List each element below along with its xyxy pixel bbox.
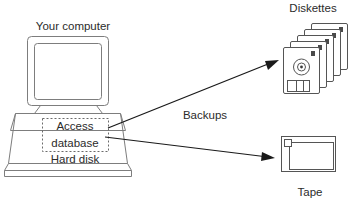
diskette-shutter-slot <box>297 81 304 92</box>
tape-graphic <box>282 137 336 172</box>
tape-label: Tape <box>298 186 323 198</box>
tape-inner-window <box>290 143 334 170</box>
diskette-hub-center <box>300 66 303 69</box>
access-database-label-line1: Access <box>56 120 93 132</box>
computer-plinth <box>5 171 132 177</box>
plinth-top-edge-right <box>128 164 132 171</box>
hard-disk-label: Hard disk <box>51 153 100 165</box>
backup-diagram: Your computer Access database Hard disk … <box>0 0 352 205</box>
arrow-to-tape-line <box>105 137 268 157</box>
access-database-label-line2: database <box>51 137 98 149</box>
diskettes-label: Diskettes <box>289 2 337 14</box>
arrow-to-diskettes-head <box>265 60 279 70</box>
computer-label: Your computer <box>36 20 111 32</box>
diskette-stack <box>284 24 348 94</box>
arrow-to-tape-head <box>261 152 275 161</box>
tape-reel-indicator <box>285 140 292 147</box>
plinth-top-edge <box>5 164 9 171</box>
backups-label: Backups <box>183 109 227 121</box>
diskette-1-front <box>284 48 320 94</box>
monitor-screen <box>35 44 102 100</box>
